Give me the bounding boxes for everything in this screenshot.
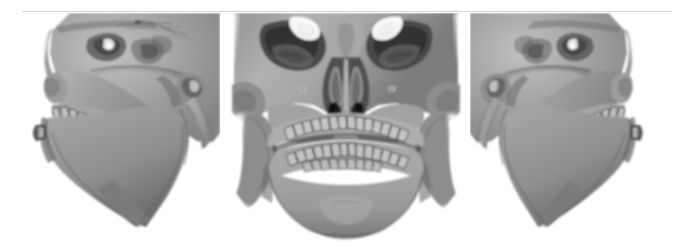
skull-render-right (470, 13, 662, 228)
skull-render-front (228, 13, 464, 241)
skull-left-svg (12, 13, 220, 228)
skull-right-svg (470, 13, 662, 228)
skull-front-svg (228, 13, 464, 241)
panel-frontal-view (228, 13, 464, 241)
skull-render-left (12, 13, 220, 228)
top-divider-rule (22, 11, 672, 12)
skull-reconstruction-figure (0, 0, 678, 243)
panel-right-oblique-view (470, 13, 662, 228)
panel-left-oblique-view (12, 13, 220, 228)
